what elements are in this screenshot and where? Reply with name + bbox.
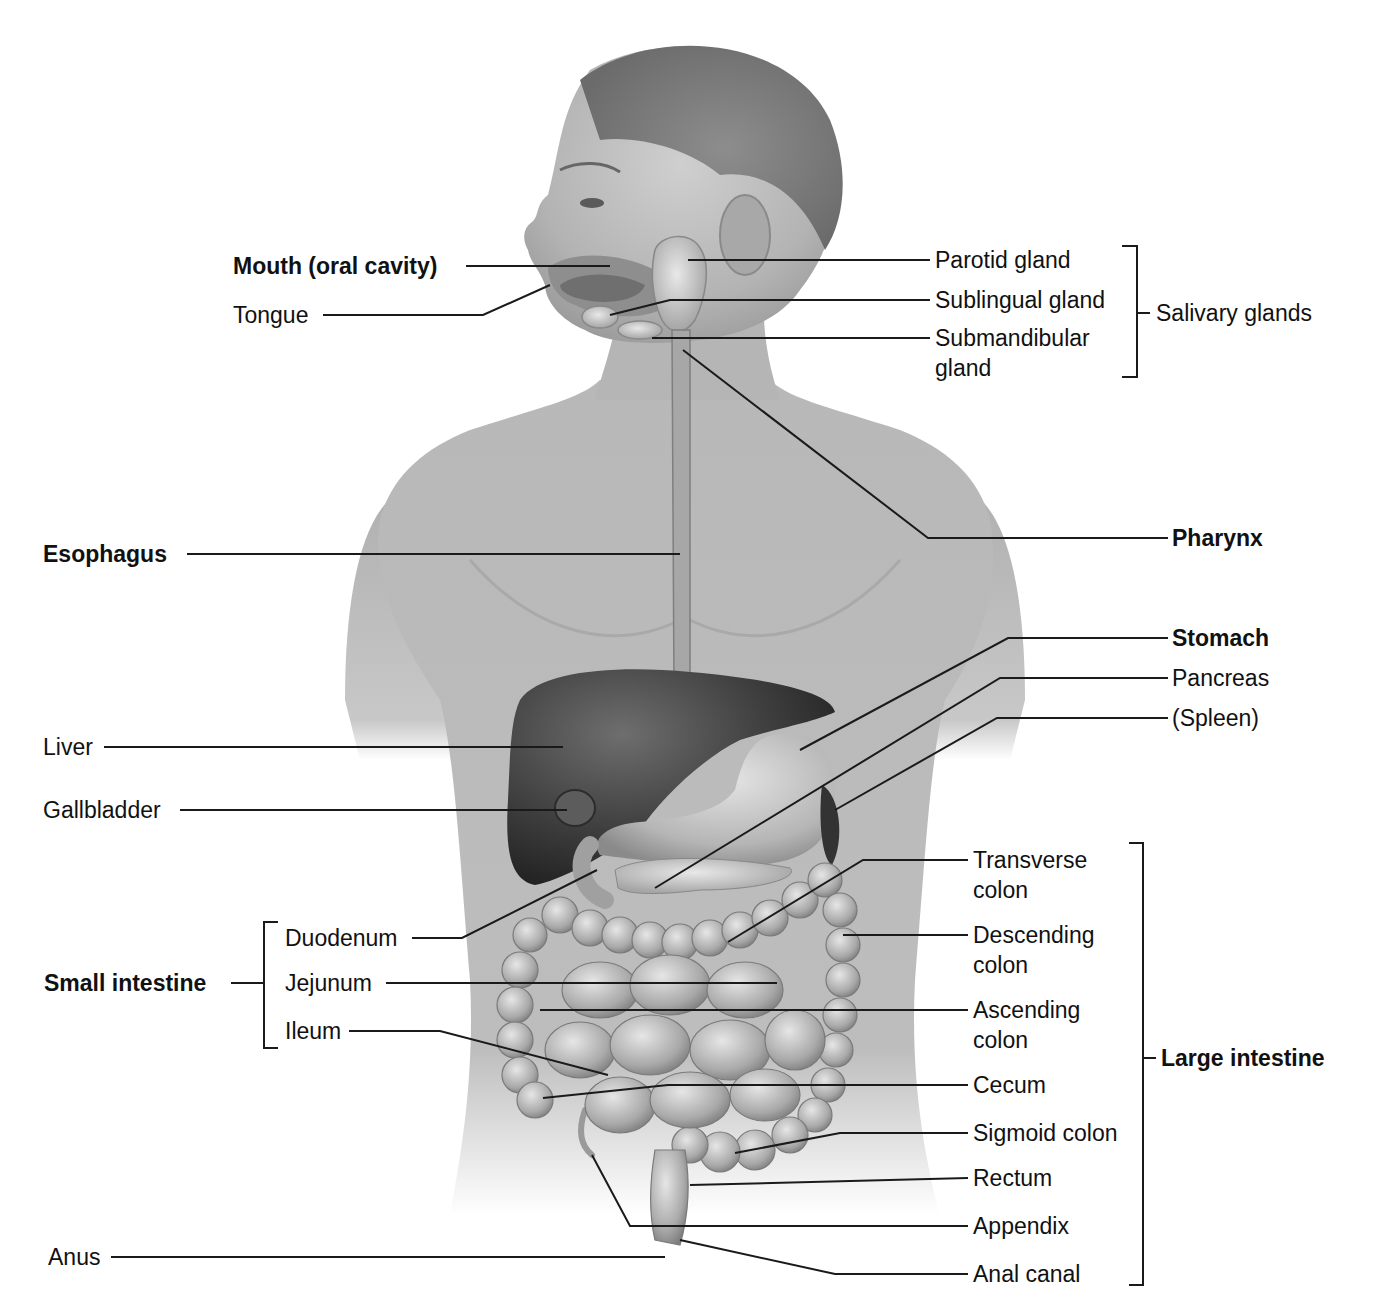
label-small-intestine: Small intestine <box>44 968 206 998</box>
label-mouth: Mouth (oral cavity) <box>233 251 437 281</box>
label-rectum: Rectum <box>973 1163 1052 1193</box>
label-submandibular-gland: Submandibular gland <box>935 323 1100 383</box>
label-pharynx: Pharynx <box>1172 523 1263 553</box>
label-jejunum: Jejunum <box>285 968 372 998</box>
label-stomach: Stomach <box>1172 623 1269 653</box>
label-large-intestine: Large intestine <box>1161 1043 1325 1073</box>
label-pancreas: Pancreas <box>1172 663 1269 693</box>
label-parotid-gland: Parotid gland <box>935 245 1071 275</box>
digestive-system-diagram: Mouth (oral cavity) Tongue Esophagus Liv… <box>0 0 1379 1315</box>
label-sublingual-gland: Sublingual gland <box>935 285 1105 315</box>
head <box>524 46 843 343</box>
esophagus-shape <box>672 330 690 690</box>
anatomy-illustration <box>0 0 1379 1315</box>
label-anus: Anus <box>48 1242 100 1272</box>
label-transverse-colon: Transverse colon <box>973 845 1113 905</box>
label-ileum: Ileum <box>285 1016 341 1046</box>
label-gallbladder: Gallbladder <box>43 795 161 825</box>
label-cecum: Cecum <box>973 1070 1046 1100</box>
label-anal-canal: Anal canal <box>973 1259 1080 1289</box>
label-tongue: Tongue <box>233 300 308 330</box>
label-liver: Liver <box>43 732 93 762</box>
label-salivary-glands: Salivary glands <box>1156 298 1312 328</box>
label-ascending-colon: Ascending colon <box>973 995 1113 1055</box>
label-appendix: Appendix <box>973 1211 1069 1241</box>
label-duodenum: Duodenum <box>285 923 398 953</box>
label-spleen: (Spleen) <box>1172 703 1259 733</box>
label-sigmoid-colon: Sigmoid colon <box>973 1118 1117 1148</box>
label-descending-colon: Descending colon <box>973 920 1123 980</box>
label-esophagus: Esophagus <box>43 539 167 569</box>
